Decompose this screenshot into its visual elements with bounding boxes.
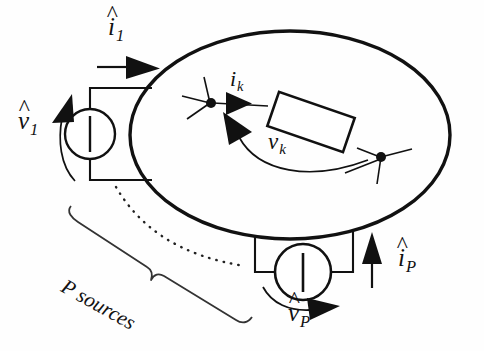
portP-voltage-subscript: P — [300, 312, 310, 331]
branch-current-arrow-head — [226, 92, 252, 115]
portP-current-subscript: P — [406, 257, 416, 276]
portP-current-label: ^iP — [398, 245, 415, 270]
port1-current-arrow-head — [126, 56, 160, 79]
figure-root: ^i1 ^v1 ik vk ^iP ^vP P sources — [0, 0, 484, 351]
branch-voltage-arrow-head — [223, 112, 252, 145]
branch-voltage-label: vk — [268, 130, 285, 153]
hat-accent-v1: ^ — [19, 96, 30, 120]
branch-voltage-symbol: v — [268, 129, 278, 154]
port1-current-subscript: 1 — [116, 26, 124, 45]
branch-current-symbol: i — [230, 66, 236, 91]
dotted-continuation-arc — [116, 187, 245, 266]
branch-voltage-arc — [239, 137, 368, 172]
hat-accent-vP: ^ — [289, 288, 300, 312]
branch-current-subscript: k — [237, 78, 243, 94]
port1-voltage-arrow-head — [52, 94, 74, 123]
portP-current-arrow-head — [362, 232, 382, 264]
portP-voltage-arrow-head — [307, 298, 340, 320]
portP-voltage-label: ^vP — [288, 300, 309, 325]
node-right-branch-e — [381, 149, 412, 157]
port1-voltage-subscript: 1 — [30, 120, 38, 139]
node-left-branch-sw — [187, 103, 210, 119]
branch-current-label: ik — [230, 68, 243, 90]
node-left-branch-w — [182, 96, 210, 103]
hat-accent-i1: ^ — [107, 2, 118, 26]
port1-current-label: ^i1 — [108, 14, 123, 39]
port1-voltage-label: ^v1 — [18, 108, 37, 133]
branch-voltage-subscript: k — [279, 140, 286, 157]
hat-accent-iP: ^ — [397, 233, 408, 257]
